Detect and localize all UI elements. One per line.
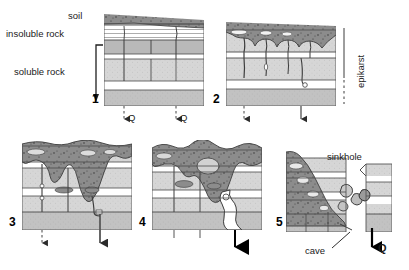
epikarst-bracket [340,28,350,106]
panel-5-number: 5 [276,216,283,228]
panel-1-number: 1 [92,93,99,105]
panel-2-flow-arrows [226,106,336,128]
figure-canvas: soil insoluble rock soluble rock [0,0,409,270]
panel-4-cross-section [152,140,262,230]
panel-4-flow-arrows [152,230,262,256]
legend-label-soluble-rock: soluble rock [14,67,65,77]
panel-2-number: 2 [213,93,220,105]
panel-4-number: 4 [139,216,146,228]
panel-5-flow-label-q: Q [378,243,387,254]
annotation-cave: cave [305,246,325,256]
panel-3-cross-section [22,140,132,230]
panel-2-cross-section [226,22,336,106]
panel-5-cross-section [286,150,392,232]
legend-label-insoluble-rock: insoluble rock [6,29,64,39]
panel-3-number: 3 [9,216,16,228]
annotation-sinkhole: sinkhole [327,152,362,162]
legend-label-soil: soil [68,11,82,21]
panel-3-flow-arrows [22,230,132,252]
panel-1-flow-label-q-right: Q [180,113,187,123]
cave-leader-line [330,230,366,252]
panel-1-flow-arrows [104,106,204,128]
annotation-epikarst: epikarst [356,55,366,88]
panel-1-flow-label-q-left: Q [128,113,135,123]
panel-1-cross-section [104,14,204,106]
